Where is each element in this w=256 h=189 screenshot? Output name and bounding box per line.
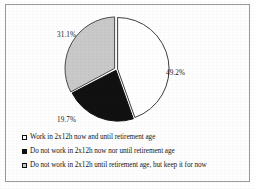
pie-percent-label-white: 49.2%	[166, 69, 185, 77]
legend-item-label: Do not work in 2x12h now nor until retir…	[30, 147, 175, 156]
legend-item-label: Work in 2x12h now and until retirement a…	[30, 133, 155, 142]
legend-item-do-not-work-2x12h-until-retirement-keep-for-now[interactable]: Do not work in 2x12h until retirement ag…	[22, 158, 237, 172]
legend-item-work-2x12h-now-and-until-retirement[interactable]: Work in 2x12h now and until retirement a…	[22, 130, 237, 144]
pie-svg	[61, 14, 171, 124]
pie-graphic	[61, 14, 171, 124]
legend-item-label: Do not work in 2x12h until retirement ag…	[30, 161, 207, 170]
pie-chart: 49.2% 19.7% 31.1% Work in 2x12h now and …	[6, 5, 251, 183]
chart-legend: Work in 2x12h now and until retirement a…	[22, 130, 237, 172]
white-square-icon	[22, 135, 27, 140]
chart-frame: 49.2% 19.7% 31.1% Work in 2x12h now and …	[5, 4, 250, 182]
black-square-icon	[22, 149, 27, 154]
gray-square-icon	[22, 163, 27, 168]
pie-percent-label-black: 19.7%	[57, 116, 76, 124]
pie-percent-label-gray: 31.1%	[57, 31, 76, 39]
legend-item-do-not-work-2x12h-now-nor-until-retirement[interactable]: Do not work in 2x12h now nor until retir…	[22, 144, 237, 158]
